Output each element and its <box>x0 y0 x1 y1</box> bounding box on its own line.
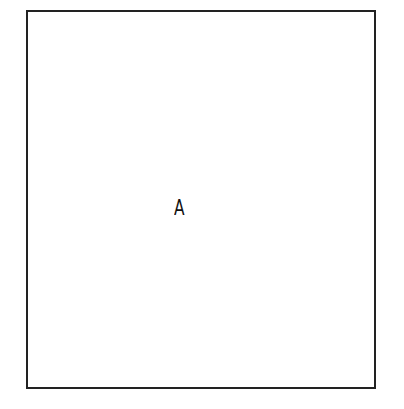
box-label: A <box>174 197 185 219</box>
box-a <box>26 10 376 389</box>
